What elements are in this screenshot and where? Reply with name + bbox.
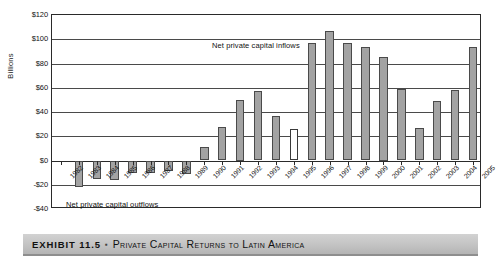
x-tick-label-1984: 1984 bbox=[104, 164, 120, 180]
x-tick-label-1991: 1991 bbox=[230, 164, 246, 180]
x-tick-label-1993: 1993 bbox=[265, 164, 281, 180]
x-tick-label-1986: 1986 bbox=[140, 164, 156, 180]
y-axis-tick-labels: $120$100$80$60$40$20$0-$20-$40 bbox=[18, 14, 48, 208]
x-tick-label-2003: 2003 bbox=[445, 164, 461, 180]
y-tick-label: -$20 bbox=[33, 179, 48, 188]
caption-separator-icon: ▪ bbox=[105, 240, 108, 249]
x-tick-label-1995: 1995 bbox=[301, 164, 317, 180]
x-tick-label-1990: 1990 bbox=[212, 164, 228, 180]
y-tick-label: $20 bbox=[36, 131, 48, 140]
x-tick-label-2005: 2005 bbox=[480, 164, 496, 180]
y-tick-label: $60 bbox=[36, 82, 48, 91]
y-tick-label: $80 bbox=[36, 58, 48, 67]
exhibit-number: EXHIBIT 11.5 bbox=[32, 239, 101, 250]
x-tick-label-2000: 2000 bbox=[391, 164, 407, 180]
y-tick-label: $100 bbox=[32, 34, 48, 43]
x-tick-label-1994: 1994 bbox=[283, 164, 299, 180]
y-tick-label: -$40 bbox=[33, 204, 48, 213]
x-tick-label-1997: 1997 bbox=[337, 164, 353, 180]
x-tick-label-1985: 1985 bbox=[122, 164, 138, 180]
x-tick-label-1998: 1998 bbox=[355, 164, 371, 180]
x-tick-label-1996: 1996 bbox=[319, 164, 335, 180]
x-tick-label-1983: 1983 bbox=[86, 164, 102, 180]
x-tick-label-1999: 1999 bbox=[373, 164, 389, 180]
exhibit-title: Private Capital Returns to Latin America bbox=[113, 238, 305, 250]
x-tick-label-2004: 2004 bbox=[463, 164, 479, 180]
exhibit-caption-bar: EXHIBIT 11.5 ▪ Private Capital Returns t… bbox=[23, 234, 478, 254]
x-tick-label-1988: 1988 bbox=[176, 164, 192, 180]
x-tick-label-2001: 2001 bbox=[409, 164, 425, 180]
y-tick-label: $40 bbox=[36, 107, 48, 116]
x-tick-label-1992: 1992 bbox=[248, 164, 264, 180]
annotation-outflows: Net private capital outflows bbox=[66, 200, 158, 209]
y-tick-label: $0 bbox=[40, 155, 48, 164]
chart-figure: Billions $120$100$80$60$40$20$0-$20-$40 … bbox=[0, 0, 503, 228]
x-tick-label-2002: 2002 bbox=[427, 164, 443, 180]
annotation-inflows: Net private capital inflows bbox=[212, 41, 300, 50]
x-tick-label-1987: 1987 bbox=[158, 164, 174, 180]
x-tick-label-1989: 1989 bbox=[194, 164, 210, 180]
y-axis-title: Billions bbox=[6, 36, 15, 96]
x-axis-tick-labels: 1982198319841985198619871988198919901991… bbox=[51, 0, 481, 228]
x-tick-label-1982: 1982 bbox=[68, 164, 84, 180]
y-tick-label: $120 bbox=[32, 10, 48, 19]
caption-underline bbox=[23, 254, 478, 256]
